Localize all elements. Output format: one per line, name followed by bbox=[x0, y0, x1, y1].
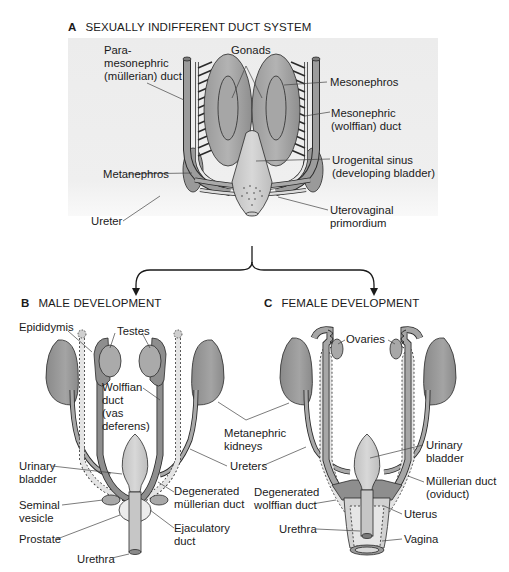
arrow-to-male bbox=[132, 288, 140, 296]
label-line: Wolffian bbox=[102, 381, 150, 394]
label-line: vesicle bbox=[19, 512, 60, 525]
label-mesonephric-duct: Mesonephric (wolffian) duct bbox=[331, 107, 401, 133]
label-line: Metanephric bbox=[224, 427, 286, 440]
label-uterus: Uterus bbox=[404, 508, 437, 521]
label-line: duct bbox=[102, 394, 150, 407]
panel-c-letter: C bbox=[264, 297, 272, 309]
label-line: Para- bbox=[104, 44, 182, 57]
label-line: wolffian duct bbox=[254, 499, 319, 512]
label-urethra-female: Urethra bbox=[279, 523, 317, 536]
label-epididymis: Epididymis bbox=[19, 321, 74, 334]
label-testes: Testes bbox=[117, 325, 150, 338]
label-line: Mesonephric bbox=[331, 107, 401, 120]
panel-a-title: ASEXUALLY INDIFFERENT DUCT SYSTEM bbox=[68, 21, 311, 33]
label-mullerian-duct-oviduct: Müllerian duct (oviduct) bbox=[426, 475, 496, 501]
panel-b-title-text: MALE DEVELOPMENT bbox=[38, 297, 161, 309]
label-urethra-male: Urethra bbox=[77, 553, 115, 566]
panel-b-title: BMALE DEVELOPMENT bbox=[21, 297, 161, 309]
panel-a-letter: A bbox=[68, 21, 76, 33]
label-line: duct bbox=[174, 535, 230, 548]
label-line: kidneys bbox=[224, 440, 286, 453]
label-prostate: Prostate bbox=[19, 533, 61, 546]
label-ureter: Ureter bbox=[91, 215, 122, 228]
label-degenerated-wolffian-duct: Degenerated wolffian duct bbox=[254, 486, 319, 512]
panel-b-drawing bbox=[46, 330, 224, 555]
label-line: Urinary bbox=[19, 460, 57, 473]
panel-c-title: CFEMALE DEVELOPMENT bbox=[264, 297, 419, 309]
label-line: (developing bladder) bbox=[332, 167, 435, 180]
branch-brace bbox=[136, 246, 374, 290]
label-line: (müllerian) duct bbox=[104, 70, 182, 83]
label-gonads: Gonads bbox=[231, 44, 271, 57]
label-line: mesonephric bbox=[104, 57, 182, 70]
label-urogenital-sinus: Urogenital sinus (developing bladder) bbox=[332, 154, 435, 180]
label-line: Urogenital sinus bbox=[332, 154, 435, 167]
label-line: (oviduct) bbox=[426, 488, 496, 501]
label-metanephros: Metanephros bbox=[103, 168, 169, 181]
panel-a-title-text: SEXUALLY INDIFFERENT DUCT SYSTEM bbox=[85, 21, 311, 33]
label-vagina: Vagina bbox=[404, 533, 438, 546]
label-line: bladder bbox=[426, 452, 464, 465]
label-line: (wolffian) duct bbox=[331, 120, 401, 133]
label-degenerated-mullerian-duct: Degenerated müllerian duct bbox=[174, 485, 244, 511]
label-line: Seminal bbox=[19, 499, 60, 512]
label-line: (vas bbox=[102, 407, 150, 420]
label-line: müllerian duct bbox=[174, 498, 244, 511]
arrow-to-female bbox=[370, 288, 378, 296]
label-ureters: Ureters bbox=[230, 460, 267, 473]
label-urinary-bladder-male: Urinary bladder bbox=[19, 460, 57, 486]
label-ejaculatory-duct: Ejaculatory duct bbox=[174, 522, 230, 548]
label-line: Urinary bbox=[426, 439, 464, 452]
label-paramesonephric-duct: Para- mesonephric (müllerian) duct bbox=[104, 44, 182, 83]
label-line: Uterovaginal bbox=[330, 204, 393, 217]
label-line: Degenerated bbox=[174, 485, 244, 498]
label-line: deferens) bbox=[102, 420, 150, 433]
label-line: Ejaculatory bbox=[174, 522, 230, 535]
label-metanephric-kidneys: Metanephric kidneys bbox=[224, 427, 286, 453]
panel-a-drawing bbox=[183, 54, 323, 216]
label-mesonephros: Mesonephros bbox=[330, 76, 398, 89]
label-line: bladder bbox=[19, 473, 57, 486]
label-urinary-bladder-female: Urinary bladder bbox=[426, 439, 464, 465]
label-ovaries: Ovaries bbox=[346, 333, 385, 346]
label-line: Müllerian duct bbox=[426, 475, 496, 488]
panel-b-letter: B bbox=[21, 297, 29, 309]
label-uterovaginal-primordium: Uterovaginal primordium bbox=[330, 204, 393, 230]
label-seminal-vesicle: Seminal vesicle bbox=[19, 499, 60, 525]
label-line: primordium bbox=[330, 217, 393, 230]
label-line: Degenerated bbox=[254, 486, 319, 499]
label-wolffian-duct: Wolffian duct (vas deferens) bbox=[102, 381, 150, 433]
panel-c-title-text: FEMALE DEVELOPMENT bbox=[281, 297, 419, 309]
